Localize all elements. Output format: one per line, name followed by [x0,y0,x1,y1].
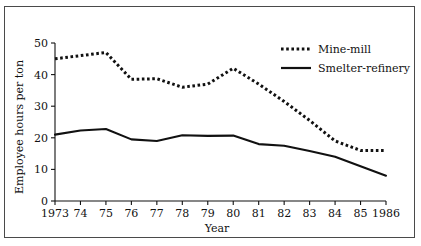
y-tick-label: 20 [34,132,48,145]
x-tick-label: 81 [252,207,266,220]
y-axis-title: Employee hours per ton [13,60,26,194]
x-tick-label: 80 [226,207,240,220]
x-tick-label: 74 [73,207,87,220]
line-chart: 01020304050 1973747576777879808182838485… [5,7,414,237]
figure-frame: 01020304050 1973747576777879808182838485… [4,6,415,238]
x-tick-label: 78 [175,207,189,220]
x-tick-label: 85 [354,207,368,220]
x-tick-label: 79 [201,207,215,220]
y-tick-label: 30 [34,100,48,113]
x-axis-title: Year [204,222,230,235]
legend-label-1: Smelter-refinery [318,62,411,75]
x-tick-label: 1973 [41,207,69,220]
series-line-1 [55,129,386,176]
y-tick-label: 40 [34,69,48,82]
x-tick-label: 83 [303,207,317,220]
y-axis: 01020304050 [34,37,55,208]
legend-label-0: Mine-mill [318,43,372,56]
x-axis: 19737475767778798081828384851986 [41,201,400,220]
y-tick-label: 50 [34,37,48,50]
chart-legend: Mine-millSmelter-refinery [281,43,411,75]
x-tick-label: 1986 [372,207,400,220]
x-tick-label: 76 [124,207,138,220]
y-tick-label: 10 [34,163,48,176]
x-tick-label: 84 [328,207,342,220]
x-tick-label: 75 [99,207,113,220]
x-tick-label: 82 [277,207,291,220]
x-tick-label: 77 [150,207,164,220]
